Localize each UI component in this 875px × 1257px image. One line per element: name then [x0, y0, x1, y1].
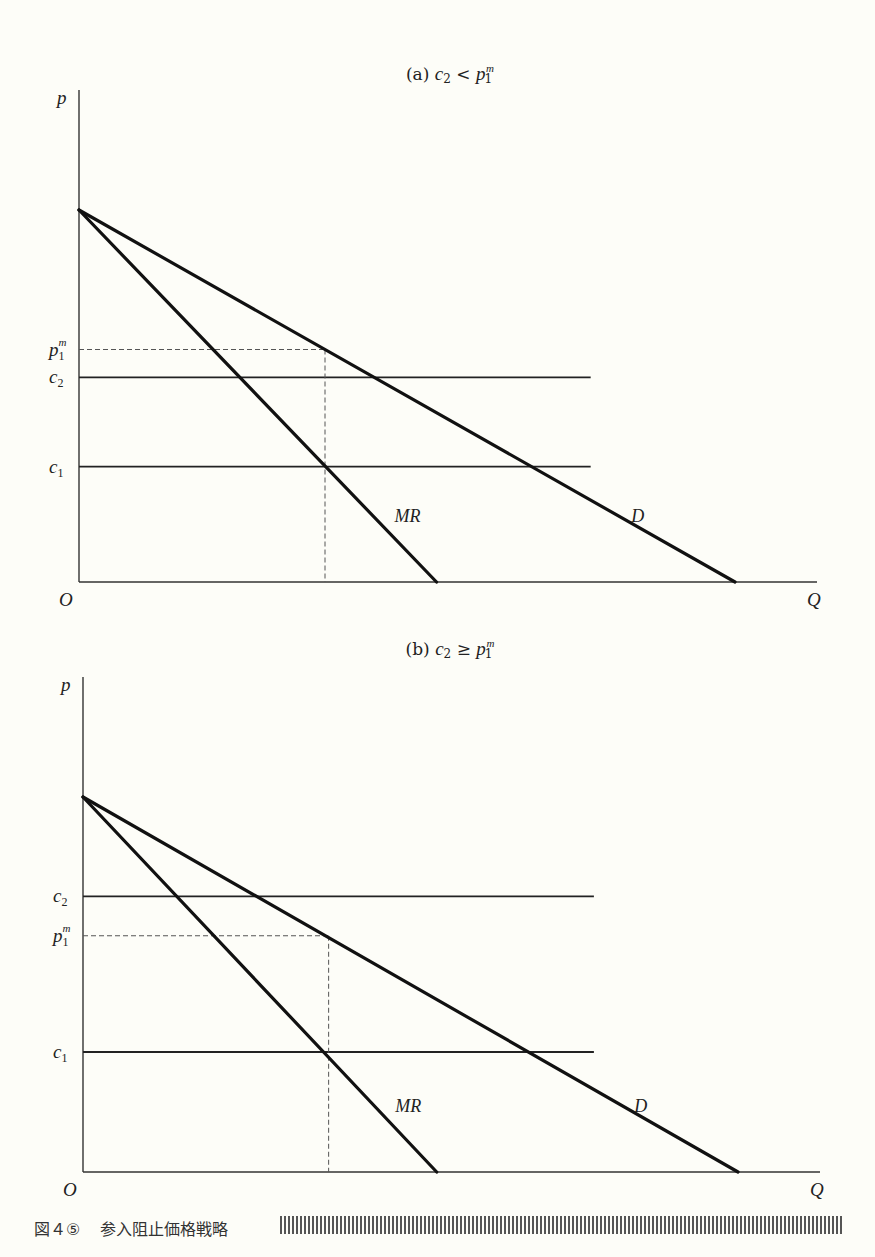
tick-label-c1: c1	[49, 456, 63, 480]
curve-MR	[83, 797, 437, 1172]
caption-number: 図４⑤	[34, 1216, 80, 1240]
curve-label-MR: MR	[394, 1096, 421, 1116]
y-axis-label: p	[55, 87, 67, 108]
curve-D	[79, 210, 735, 582]
tick-label-c1: c1	[53, 1041, 67, 1065]
tick-label-c2: c2	[53, 885, 67, 909]
origin-label: O	[59, 589, 73, 610]
curve-label-MR: MR	[393, 506, 420, 526]
chart-title: (b) c2 ≥ p1m	[406, 637, 495, 661]
origin-label: O	[63, 1179, 77, 1200]
y-axis-label: p	[59, 674, 71, 695]
caption-hatch-rule	[280, 1216, 842, 1234]
tick-label-c2: c2	[49, 366, 63, 390]
figure-canvas: (a) c2 < p1mpQOc2c1p1mDMR(b) c2 ≥ p1mpQO…	[0, 0, 875, 1257]
x-axis-label: Q	[810, 1179, 824, 1200]
x-axis-label: Q	[807, 589, 821, 610]
tick-label-p1m: p1m	[47, 336, 67, 363]
figure-caption: 図４⑤ 参入阻止価格戦略	[34, 1216, 228, 1240]
curve-label-D: D	[633, 1096, 647, 1116]
curve-MR	[79, 210, 437, 582]
curve-D	[83, 797, 738, 1172]
chart-panel-a: (a) c2 < p1mpQOc2c1p1mDMR	[47, 62, 821, 610]
tick-label-p1m: p1m	[51, 922, 71, 949]
chart-title: (a) c2 < p1m	[406, 62, 494, 86]
chart-panel-b: (b) c2 ≥ p1mpQOc2p1mc1DMR	[51, 637, 824, 1200]
curve-label-D: D	[630, 506, 644, 526]
caption-title: 参入阻止価格戦略	[100, 1216, 228, 1240]
